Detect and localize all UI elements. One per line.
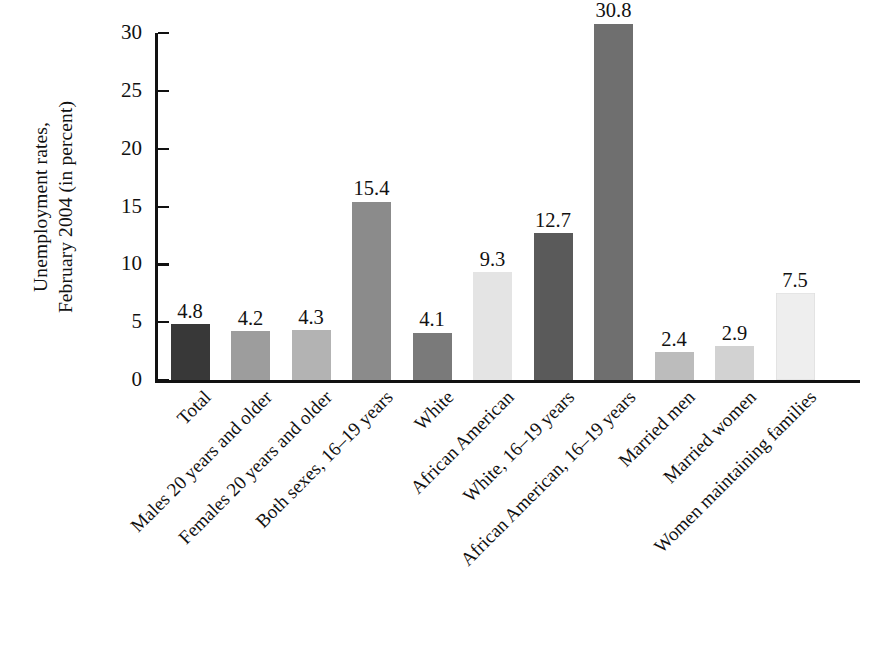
x-axis-tick-label: White, 16–19 years — [459, 387, 577, 505]
x-axis-tick-label-text: White, 16–19 years — [459, 387, 577, 505]
x-axis-tick-label-text: African American — [407, 387, 517, 497]
bar[interactable]: 4.2 — [231, 331, 270, 380]
bar-value-label: 9.3 — [480, 249, 506, 270]
bar[interactable]: 30.8 — [594, 24, 633, 380]
bar-value-label: 4.8 — [177, 301, 203, 322]
y-axis-tick-mark — [158, 206, 169, 208]
bar-value-label: 4.1 — [419, 309, 445, 330]
bar[interactable]: 9.3 — [473, 272, 512, 380]
bar[interactable]: 4.1 — [413, 333, 452, 380]
y-axis-tick-label: 20 — [121, 138, 142, 159]
y-axis-tick-label: 0 — [132, 369, 143, 390]
x-axis-tick-label-text: White — [411, 387, 457, 433]
bar[interactable]: 4.8 — [171, 324, 210, 380]
x-axis-tick-label: African American — [407, 387, 517, 497]
x-axis-tick-label: White — [411, 387, 457, 433]
x-axis-tick-label-text: Total — [173, 387, 214, 428]
y-axis-tick-label: 30 — [121, 22, 142, 43]
bar[interactable]: 4.3 — [292, 330, 331, 380]
bar-value-label: 30.8 — [596, 0, 632, 21]
bar-value-label: 4.2 — [238, 308, 264, 329]
plot-area: 051015202530 4.84.24.315.44.19.312.730.8… — [155, 33, 860, 380]
y-axis-tick-mark — [158, 321, 169, 323]
y-axis-tick-label: 25 — [121, 80, 142, 101]
bar[interactable]: 2.9 — [715, 346, 754, 380]
bar-value-label: 12.7 — [535, 210, 571, 231]
bar-value-label: 4.3 — [298, 307, 324, 328]
y-axis-tick-label: 5 — [132, 311, 143, 332]
y-axis-tick-mark — [158, 148, 169, 150]
bar-value-label: 7.5 — [782, 270, 808, 291]
y-axis-tick-mark — [158, 90, 169, 92]
bar[interactable]: 15.4 — [352, 202, 391, 380]
y-axis-title-line-2: February 2004 (in percent) — [53, 100, 78, 312]
y-axis-title-text: Unemployment rates, February 2004 (in pe… — [28, 100, 79, 312]
y-axis-tick-mark — [158, 32, 169, 34]
y-axis-tick-label: 10 — [121, 253, 142, 274]
bar-chart-figure: Unemployment rates, February 2004 (in pe… — [0, 0, 889, 661]
y-axis-title-line-1: Unemployment rates, — [28, 100, 53, 312]
y-axis-tick-label: 15 — [121, 196, 142, 217]
bar-value-label: 15.4 — [354, 178, 390, 199]
y-axis-title: Unemployment rates, February 2004 (in pe… — [18, 33, 88, 380]
bar[interactable]: 2.4 — [655, 352, 694, 380]
y-axis-tick-mark — [158, 379, 169, 381]
bar-value-label: 2.4 — [661, 329, 687, 350]
y-axis-tick-mark — [158, 263, 169, 265]
x-axis-line — [155, 380, 860, 383]
bar[interactable]: 7.5 — [776, 293, 815, 380]
bar-value-label: 2.9 — [722, 323, 748, 344]
bar[interactable]: 12.7 — [534, 233, 573, 380]
x-axis-tick-label: Total — [173, 387, 214, 428]
